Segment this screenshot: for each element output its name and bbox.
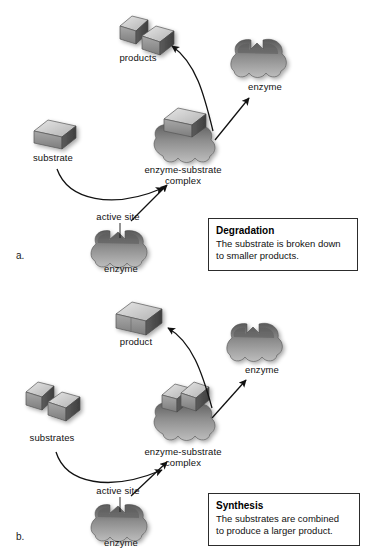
label-product: product bbox=[120, 336, 152, 347]
synthesis-callout-title: Synthesis bbox=[216, 499, 352, 512]
label-complex-line2-b: complex bbox=[165, 457, 201, 468]
label-active-site-b: active site bbox=[96, 485, 139, 496]
degradation-panel: products enzyme substrate enzyme-substra… bbox=[0, 0, 367, 280]
panel-letter-b: b. bbox=[16, 531, 24, 542]
product-shape bbox=[116, 302, 162, 335]
enzyme-substrate-complex-shape-b bbox=[154, 382, 215, 441]
label-free-enzyme: enzyme bbox=[248, 81, 282, 92]
panel-letter-a: a. bbox=[16, 250, 24, 261]
free-enzyme-shape bbox=[231, 39, 287, 77]
label-free-enzyme-b: enzyme bbox=[245, 364, 279, 375]
bottom-enzyme-shape bbox=[91, 231, 147, 268]
synthesis-callout-line2: to produce a larger product. bbox=[216, 525, 352, 537]
synthesis-callout-line1: The substrates are combined bbox=[216, 513, 352, 525]
substrates-shape bbox=[26, 382, 80, 421]
arrow-complex-to-enzyme-b bbox=[212, 380, 246, 418]
label-bottom-enzyme-b: enzyme bbox=[104, 537, 138, 548]
enzyme-substrate-complex-shape bbox=[154, 108, 215, 163]
synthesis-callout-body: The substrates are combined to produce a… bbox=[216, 513, 352, 537]
label-complex-line2: complex bbox=[165, 175, 201, 186]
degradation-callout-title: Degradation bbox=[216, 224, 350, 237]
label-substrates: substrates bbox=[30, 432, 75, 443]
degradation-callout-body: The substrate is broken down to smaller … bbox=[216, 238, 350, 262]
products-shape bbox=[120, 16, 174, 55]
label-complex-line1-b: enzyme-substrate bbox=[144, 446, 221, 457]
label-bottom-enzyme: enzyme bbox=[104, 263, 138, 274]
label-substrate: substrate bbox=[33, 152, 73, 163]
enzyme-reaction-figure: products enzyme substrate enzyme-substra… bbox=[0, 0, 367, 557]
synthesis-callout: Synthesis The substrates are combined to… bbox=[208, 493, 360, 546]
label-active-site: active site bbox=[96, 211, 139, 222]
substrate-shape bbox=[34, 120, 76, 149]
synthesis-panel: product enzyme substrates enzyme-substra… bbox=[0, 280, 367, 557]
arrow-complex-to-enzyme bbox=[215, 98, 249, 140]
bottom-enzyme-shape-b bbox=[91, 505, 147, 542]
label-products: products bbox=[119, 52, 156, 63]
degradation-callout-line1: The substrate is broken down bbox=[216, 238, 350, 250]
free-enzyme-shape-b bbox=[227, 323, 283, 361]
degradation-callout-line2: to smaller products. bbox=[216, 250, 350, 262]
label-complex-line1: enzyme-substrate bbox=[144, 164, 221, 175]
degradation-callout: Degradation The substrate is broken down… bbox=[208, 218, 358, 271]
